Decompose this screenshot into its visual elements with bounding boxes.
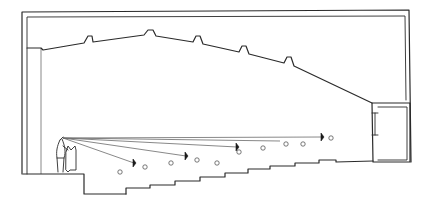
- sightline-arrow-icon: [133, 159, 136, 167]
- seat-head-icon: [261, 146, 265, 150]
- sightline-arrow-icon: [185, 152, 188, 160]
- seat-head-icon: [143, 165, 147, 169]
- sight-line-0: [63, 137, 322, 138]
- ceiling-line: [27, 30, 372, 103]
- stairs-line: [126, 160, 373, 194]
- seat-head-icon: [284, 142, 288, 146]
- control-booth: [372, 103, 410, 162]
- booth-outer-line: [372, 103, 410, 162]
- seat-head-icon: [169, 161, 173, 165]
- seat-head-icon: [301, 142, 305, 146]
- seat-head-icon: [237, 150, 241, 154]
- booth-inner-line: [378, 107, 407, 160]
- inner-wall-line: [27, 16, 406, 174]
- ceiling-profile: [27, 30, 372, 103]
- seat-head-icon: [118, 170, 122, 174]
- section-svg: [0, 0, 434, 204]
- sight-lines: [63, 133, 324, 167]
- audience-seats: [118, 136, 333, 174]
- performer-figure: [57, 137, 76, 172]
- seating-stairs: [126, 160, 373, 194]
- sight-line-4: [63, 138, 134, 163]
- building-frame: [22, 10, 411, 174]
- auditorium-section-drawing: [0, 0, 434, 204]
- stage-floor: [23, 174, 126, 194]
- sightline-arrow-icon: [321, 133, 324, 141]
- stage-floor-line: [23, 174, 126, 194]
- seat-head-icon: [195, 158, 199, 162]
- seat-head-icon: [329, 136, 333, 140]
- seat-head-icon: [215, 161, 219, 165]
- outer-wall-line: [22, 10, 411, 174]
- figure-body: [57, 137, 65, 172]
- sight-line-3: [63, 138, 186, 156]
